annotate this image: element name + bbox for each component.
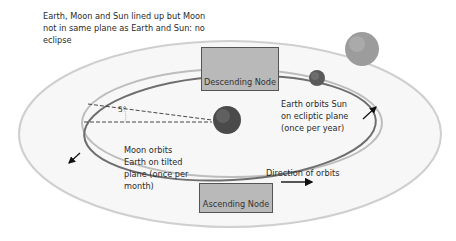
ascending-node-label: Ascending Node	[203, 199, 269, 209]
earth-orbit-label-1: Earth orbits Sun	[281, 98, 347, 110]
moon-orbit-label-4: month)	[124, 180, 154, 192]
ascending-node-box: Ascending Node	[199, 183, 273, 213]
direction-label: Direction of orbits	[266, 167, 339, 179]
caption-line-1: Earth, Moon and Sun lined up but Moon	[43, 10, 205, 22]
moon-orbit-label-1: Moon orbits	[124, 144, 172, 156]
descending-node-label: Descending Node	[204, 77, 276, 87]
earth-orbit-label-3: (once per year)	[281, 122, 344, 134]
caption-line-2: not in same plane as Earth and Sun: no	[43, 22, 205, 34]
angle-label: 5°	[118, 104, 127, 116]
moon-orbit-label-2: Earth on tilted	[124, 156, 183, 168]
descending-node-box: Descending Node	[201, 47, 279, 91]
caption-line-3: eclipse	[43, 34, 72, 46]
moon-orbit-label-3: plane (once per	[124, 168, 188, 180]
earth-orbit-label-2: on ecliptic plane	[281, 110, 348, 122]
